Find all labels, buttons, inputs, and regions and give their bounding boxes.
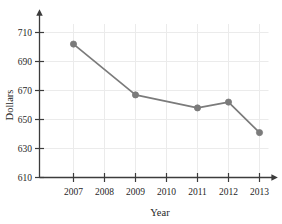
data-point-2011: 2011: 658 [194, 105, 200, 111]
ytick-label-630: 630 [18, 144, 33, 154]
xtick-label-2012: 2012 [219, 187, 238, 197]
xtick-label-2007: 2007 [64, 187, 83, 197]
data-point-2009: 2009: 667 [132, 92, 138, 98]
ytick-label-670: 670 [18, 86, 33, 96]
chart-plot-area: 710 690 670 650 630 610 2007 2008 2009 2… [0, 0, 282, 224]
xtick-label-2009: 2009 [126, 187, 145, 197]
xtick-label-2010: 2010 [157, 187, 176, 197]
xtick-label-2013: 2013 [250, 187, 269, 197]
xtick-label-2008: 2008 [95, 187, 114, 197]
ytick-label-690: 690 [18, 57, 33, 67]
ytick-label-650: 650 [18, 115, 33, 125]
data-point-2007: 2007: 702 [70, 41, 76, 47]
x-axis-title: Year [150, 207, 170, 218]
ytick-label-610: 610 [18, 173, 33, 183]
ytick-label-710: 710 [18, 28, 33, 38]
y-axis-tick-labels: 710 690 670 650 630 610 [18, 28, 33, 183]
data-point-2012: 2012: 662 [225, 99, 231, 105]
x-axis-tick-labels: 2007 2008 2009 2010 2011 2012 2013 [64, 187, 269, 197]
xtick-label-2011: 2011 [188, 187, 207, 197]
data-point-2013: 2013: 641 [256, 130, 262, 136]
line-chart: 710 690 670 650 630 610 2007 2008 2009 2… [0, 0, 282, 224]
y-axis-title: Dollars [4, 90, 15, 121]
